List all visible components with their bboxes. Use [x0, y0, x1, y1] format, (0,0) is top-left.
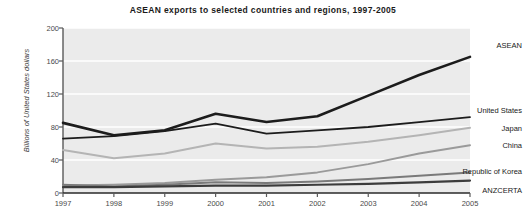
series-label-anzcerta: ANZCERTA	[482, 185, 522, 194]
plot-background	[63, 28, 470, 193]
series-label-china: China	[502, 141, 522, 150]
series-label-japan: Japan	[502, 123, 522, 132]
plot-area	[0, 0, 526, 224]
series-label-asean: ASEAN	[497, 40, 522, 49]
chart-container: ASEAN exports to selected countries and …	[0, 0, 526, 224]
plot-background-group	[63, 28, 470, 193]
series-label-united-states: United States	[477, 106, 522, 115]
series-label-republic-of-korea: Republic of Korea	[462, 167, 522, 176]
